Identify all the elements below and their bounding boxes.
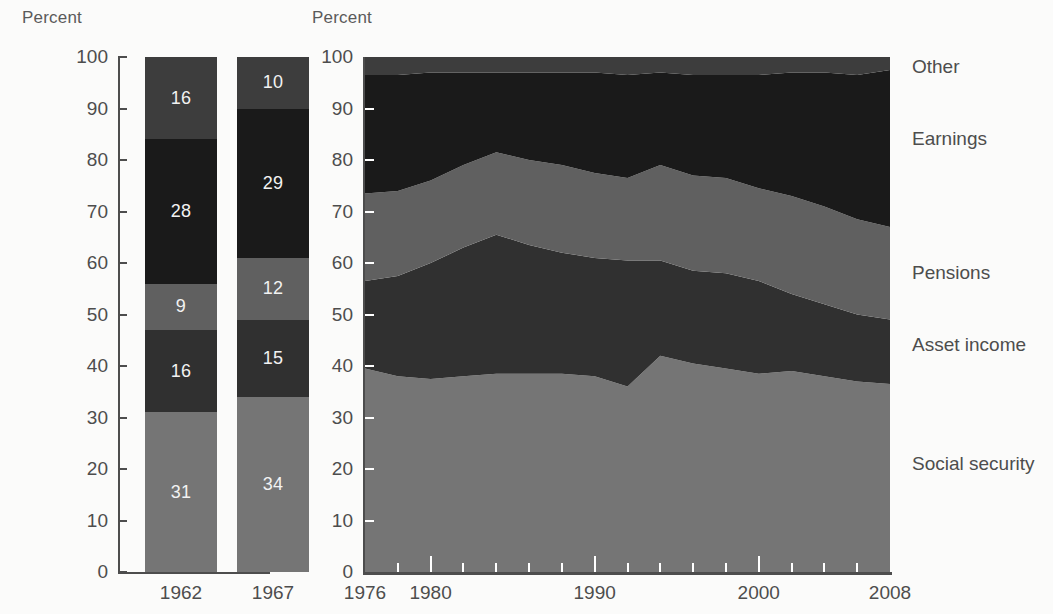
area-x-tick-mark [495,563,497,572]
bar-segment[interactable]: 28 [145,139,217,283]
area-x-tick-mark [692,563,694,572]
bar-y-tick-label: 0 [60,561,108,583]
bar-segment-value: 34 [263,474,284,495]
bar-segment-value: 16 [171,361,192,382]
bar-y-tick-mark [118,159,127,161]
area-y-tick-mark [365,365,374,367]
bar-y-tick-mark [118,468,127,470]
area-x-tick-mark [430,556,432,572]
legend-item-other[interactable]: Other [912,56,960,78]
bar-y-tick-label: 100 [60,46,108,68]
bar-y-tick-mark [118,211,127,213]
bar-segment-value: 29 [263,173,284,194]
bar-y-tick-mark [118,417,127,419]
bar-segment[interactable]: 9 [145,284,217,330]
area-x-tick-mark [561,563,563,572]
area-x-tick-mark [659,563,661,572]
area-y-tick-label: 100 [303,46,353,68]
bar-y-tick-label: 80 [60,149,108,171]
legend-item-social-security[interactable]: Social security [912,453,1035,475]
area-y-tick-mark [365,108,374,110]
bar-segment[interactable]: 16 [145,330,217,412]
area-x-tick-mark [856,563,858,572]
bar-segment-value: 12 [263,278,284,299]
area-y-tick-label: 50 [303,304,353,326]
bar-segment-value: 16 [171,88,192,109]
area-y-tick-label: 90 [303,98,353,120]
bar-y-tick-label: 20 [60,458,108,480]
bar-segment[interactable]: 15 [237,320,309,397]
bar-segment[interactable]: 10 [237,57,309,109]
area-y-tick-mark [365,159,374,161]
bar-y-tick-label: 90 [60,98,108,120]
bar-segment[interactable]: 29 [237,109,309,258]
bar-segment-value: 31 [171,482,192,503]
area-y-tick-label: 30 [303,407,353,429]
bar-y-tick-mark [118,365,127,367]
bar-category-label: 1962 [160,582,202,604]
area-y-axis-spine [363,57,365,574]
bar-segment[interactable]: 12 [237,258,309,320]
area-x-tick-mark [397,563,399,572]
bar-segment-value: 15 [263,348,284,369]
area-x-tick-mark [594,556,596,572]
area-y-tick-label: 10 [303,510,353,532]
bar-segment[interactable]: 16 [145,57,217,139]
area-x-tick-label: 1980 [409,582,451,604]
legend-item-pensions[interactable]: Pensions [912,262,990,284]
area-x-tick-mark [758,556,760,572]
bar-y-tick-mark [118,314,127,316]
area-x-tick-mark [725,563,727,572]
bar-segment-value: 28 [171,201,192,222]
area-y-tick-mark [365,520,374,522]
bar-y-tick-label: 50 [60,304,108,326]
area-y-tick-mark [365,262,374,264]
area-y-tick-label: 0 [303,561,353,583]
area-x-tick-label: 2008 [869,582,911,604]
stacked-bar-panel: Percent 1009080706050403020100 162891631… [0,0,300,614]
area-x-tick-label: 1990 [574,582,616,604]
area-x-tick-mark [823,563,825,572]
area-x-tick-mark [627,563,629,572]
legend-item-earnings[interactable]: Earnings [912,128,987,150]
stacked-area-panel: Percent 1009080706050403020100 197619801… [300,0,1053,614]
bar-segment-value: 10 [263,72,284,93]
area-x-tick-mark [791,563,793,572]
area-y-tick-mark [365,468,374,470]
area-x-tick-label: 2000 [738,582,780,604]
bar-y-tick-label: 30 [60,407,108,429]
area-x-tick-mark [462,563,464,572]
bar-y-tick-mark [118,262,127,264]
legend-item-asset-income[interactable]: Asset income [912,334,1026,356]
bar-column[interactable]: 1029121534 [237,57,309,572]
area-y-tick-label: 70 [303,201,353,223]
area-band-social-security[interactable] [365,356,890,572]
area-y-tick-mark [365,314,374,316]
area-y-tick-label: 40 [303,355,353,377]
bar-column[interactable]: 162891631 [145,57,217,572]
bar-y-tick-label: 10 [60,510,108,532]
area-y-tick-label: 20 [303,458,353,480]
area-x-tick-mark [528,563,530,572]
bar-panel-axis-title: Percent [22,8,82,28]
bar-y-tick-mark [118,520,127,522]
bar-y-tick-label: 60 [60,252,108,274]
bar-y-tick-label: 40 [60,355,108,377]
area-y-tick-mark [365,417,374,419]
bar-y-tick-mark [118,108,127,110]
area-y-tick-mark [365,211,374,213]
bar-y-tick-mark [118,56,127,58]
bar-category-label: 1967 [252,582,294,604]
area-y-tick-label: 80 [303,149,353,171]
area-y-tick-label: 60 [303,252,353,274]
bar-segment-value: 9 [176,296,186,317]
bar-y-tick-label: 70 [60,201,108,223]
area-x-tick-label: 1976 [344,582,386,604]
bar-x-axis-baseline [118,572,270,574]
bar-segment[interactable]: 34 [237,397,309,572]
area-chart-svg [300,0,1053,614]
bar-segment[interactable]: 31 [145,412,217,572]
area-x-axis-baseline [363,572,892,575]
area-band-other[interactable] [365,57,890,75]
figure-root: Percent 1009080706050403020100 162891631… [0,0,1053,614]
